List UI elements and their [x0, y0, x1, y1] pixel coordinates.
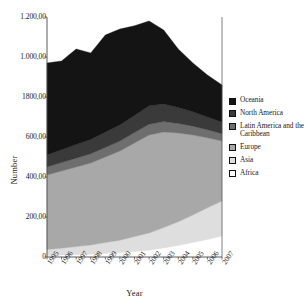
legend-item: Oceania: [229, 96, 308, 105]
legend-label: North America: [240, 109, 283, 117]
legend-swatch-icon: [229, 144, 236, 151]
legend-label: Africa: [240, 169, 258, 177]
chart-legend: OceaniaNorth AmericaLatin America and th…: [229, 96, 308, 182]
legend-item: North America: [229, 109, 308, 118]
legend-label: Asia: [240, 156, 253, 164]
legend-swatch-icon: [229, 157, 236, 164]
legend-swatch-icon: [229, 123, 236, 130]
legend-swatch-icon: [229, 170, 236, 177]
legend-item: Asia: [229, 156, 308, 165]
stacked-area-chart: Number 0200,00400,00600,001800,001.000,0…: [0, 0, 308, 308]
legend-item: Africa: [229, 169, 308, 178]
legend-label: Latin America and the Caribbean: [240, 122, 308, 139]
x-axis-title: Year: [47, 288, 222, 298]
legend-item: Europe: [229, 143, 308, 152]
legend-label: Europe: [240, 143, 261, 151]
legend-swatch-icon: [229, 98, 236, 105]
legend-item: Latin America and the Caribbean: [229, 122, 308, 139]
legend-swatch-icon: [229, 110, 236, 117]
legend-label: Oceania: [240, 96, 264, 104]
